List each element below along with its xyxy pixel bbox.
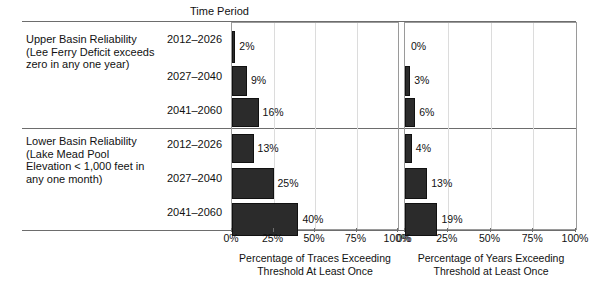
- bar-value-label: 3%: [414, 74, 429, 86]
- bar-value-label: 2%: [239, 40, 254, 52]
- chart-panel-traces-exceeding: 2%9%16%13%25%40%: [231, 22, 399, 230]
- bar: [232, 31, 235, 63]
- bar: [405, 66, 410, 96]
- bar: [405, 98, 415, 127]
- x-tick-label: 75%: [345, 232, 366, 244]
- bar-value-label: 6%: [419, 106, 434, 118]
- period-label-lower-1: 2012–2026: [167, 138, 222, 150]
- x-axis-title-left: Percentage of Traces Exceeding Threshold…: [216, 252, 414, 278]
- group-label-lower-basin: Lower Basin Reliability (Lake Mead Pool …: [26, 135, 144, 185]
- gridline: [274, 23, 275, 229]
- table-rule-bottom: [22, 230, 576, 231]
- x-tick-label: 0%: [396, 232, 411, 244]
- period-label-upper-2: 2027–2040: [167, 70, 222, 82]
- x-tick-label: 50%: [303, 232, 324, 244]
- bar-value-label: 13%: [258, 142, 279, 154]
- period-label-lower-2: 2027–2040: [167, 172, 222, 184]
- gridline: [533, 23, 534, 229]
- x-tick-label: 25%: [262, 232, 283, 244]
- x-axis-ticks-right: 0%25%50%75%100%: [404, 232, 577, 246]
- period-label-lower-3: 2041–2060: [167, 206, 222, 218]
- x-axis-title-right: Percentage of Years Exceeding Threshold …: [396, 252, 586, 278]
- bar-value-label: 13%: [431, 177, 452, 189]
- bar: [232, 66, 247, 96]
- gridline: [448, 23, 449, 229]
- bar-value-label: 25%: [278, 177, 299, 189]
- x-tick-label: 75%: [522, 232, 543, 244]
- bar-value-label: 0%: [411, 40, 426, 52]
- gridline: [357, 23, 358, 229]
- x-tick-label: 0%: [223, 232, 238, 244]
- chart-panel-years-exceeding: 0%3%6%4%13%19%: [404, 22, 577, 230]
- bar-value-label: 40%: [302, 213, 323, 225]
- x-tick-label: 50%: [479, 232, 500, 244]
- group-label-upper-basin: Upper Basin Reliability (Lee Ferry Defic…: [26, 33, 154, 71]
- bar: [405, 134, 412, 163]
- bar: [405, 168, 427, 199]
- bar: [232, 168, 274, 199]
- x-tick-label: 100%: [562, 232, 589, 244]
- column-header-time-period: Time Period: [190, 5, 249, 17]
- x-tick-label: 25%: [436, 232, 457, 244]
- bar: [232, 98, 259, 127]
- x-axis-ticks-left: 0%25%50%75%100%: [231, 232, 399, 246]
- bar-value-label: 16%: [263, 106, 284, 118]
- bar-value-label: 9%: [251, 74, 266, 86]
- bar: [232, 134, 254, 163]
- gridline: [315, 23, 316, 229]
- period-label-upper-1: 2012–2026: [167, 33, 222, 45]
- gridline: [491, 23, 492, 229]
- bar-value-label: 19%: [441, 213, 462, 225]
- bar-value-label: 4%: [416, 142, 431, 154]
- figure: Time Period Upper Basin Reliability (Lee…: [0, 0, 597, 292]
- period-label-upper-3: 2041–2060: [167, 104, 222, 116]
